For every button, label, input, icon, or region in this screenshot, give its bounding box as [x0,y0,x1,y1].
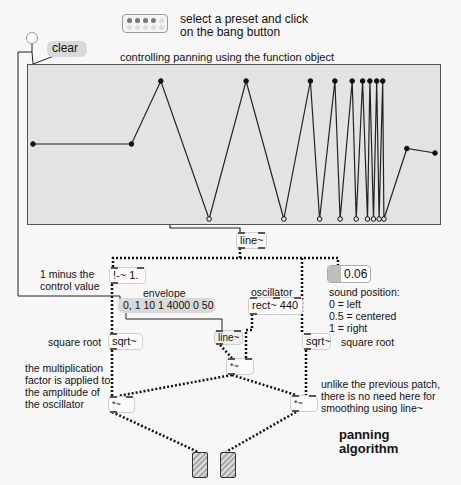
dac-right-speaker[interactable] [220,452,236,478]
unlike-note-0: unlike the previous patch, [321,378,440,390]
sound-position-label-1: 0 = left [329,298,361,310]
sound-position-number[interactable]: 0.06 [327,265,371,283]
one-minus-label-1: 1 minus the [40,268,94,280]
multiply-object-middle[interactable]: *~ [226,358,254,375]
sound-position-label-2: 0.5 = centered [329,310,396,322]
number-triangle-icon [328,266,341,282]
multiplication-note-2: the amplitude of [25,386,100,398]
square-root-label-left: square root [48,336,101,348]
panning-title-2: algorithm [339,442,398,456]
function-title: controlling panning using the function o… [120,51,334,63]
bang-button[interactable] [26,32,38,44]
one-minus-object[interactable]: !-~ 1. [109,267,146,284]
one-minus-label-2: control value [40,280,100,292]
preset-object[interactable] [122,14,168,33]
panning-title-1: panning [339,428,390,442]
sqrt-object-right[interactable]: sqrt~ [302,333,331,350]
sound-position-label-3: 1 = right [329,322,367,334]
unlike-note-2: smoothing using line~ [321,402,423,414]
function-object[interactable] [27,64,441,225]
multiply-object-left[interactable]: *~ [108,396,135,413]
multiplication-note-1: factor is applied to [25,374,110,386]
oscillator-object[interactable]: rect~ 440 [248,297,303,315]
unlike-note-1: there is no need here for [321,390,435,402]
preset-hint-line2: on the bang button [180,26,280,38]
function-graph [28,65,440,224]
sqrt-object-left[interactable]: sqrt~ [108,333,143,350]
preset-hint-line1: select a preset and click [180,13,308,25]
multiplication-note-0: the multiplication [25,362,103,374]
line-object-small[interactable]: line~ [214,330,243,345]
square-root-label-right: square root [341,336,394,348]
line-object-top[interactable]: line~ [236,232,267,249]
clear-message[interactable]: clear [47,41,87,57]
dac-left-speaker[interactable] [192,452,208,478]
sound-position-label-0: sound position: [329,286,400,298]
multiplication-note-3: the oscillator [25,398,84,410]
multiply-object-right[interactable]: *~ [290,395,318,412]
envelope-message[interactable]: 0, 1 10 1 4000 0 50 [118,298,215,313]
